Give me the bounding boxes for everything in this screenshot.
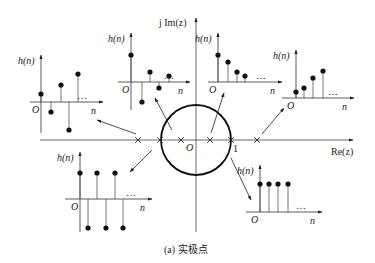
ellipsis: … — [256, 70, 266, 81]
diagram-canvas: j Im(z) Re(z) O 1 h(n)On…h(n)On…h(n)On…h… — [0, 0, 375, 263]
n-label: n — [310, 215, 315, 226]
arrow-icon — [97, 120, 136, 134]
stem-dot — [285, 181, 290, 186]
real-axis-label: Re(z) — [331, 146, 353, 158]
origin-label: O — [287, 100, 294, 111]
arrow-icon — [130, 150, 152, 172]
figure-caption: (a) 实极点 — [164, 243, 208, 256]
stem-dot — [85, 225, 90, 230]
z-origin-label: O — [186, 142, 193, 153]
ellipsis: … — [296, 200, 306, 211]
impulse-response-plots: h(n)On…h(n)On…h(n)On…h(n)On…h(n)On…h(n)O… — [18, 33, 354, 232]
stem-dot — [215, 52, 220, 57]
stem-dot — [257, 181, 262, 186]
n-label: n — [91, 105, 96, 116]
imag-axis-label: j Im(z) — [158, 17, 187, 29]
n-label: n — [178, 85, 183, 96]
origin-label: O — [71, 201, 78, 212]
pole-zero-diagram: j Im(z) Re(z) O 1 h(n)On…h(n)On…h(n)On…h… — [0, 0, 375, 263]
stem-plot-constant: h(n)On… — [237, 165, 322, 226]
stem-plot-growing: h(n)On… — [273, 50, 354, 112]
origin-label: O — [209, 84, 216, 95]
stem-dot — [242, 73, 247, 78]
stem-dot — [66, 127, 71, 132]
hn-label: h(n) — [18, 55, 35, 67]
ellipsis: … — [126, 187, 136, 198]
stem-dot — [234, 69, 239, 74]
stem-dot — [94, 170, 99, 175]
arrow-icon — [211, 93, 224, 133]
stem-dot — [156, 85, 161, 90]
stem-dot — [320, 68, 325, 73]
n-label: n — [140, 202, 145, 213]
stem-dot — [77, 170, 82, 175]
stem-dot — [58, 82, 63, 87]
n-label: n — [342, 101, 347, 112]
stem-dot — [112, 170, 117, 175]
ellipsis: … — [77, 90, 87, 101]
arrow-icon — [262, 108, 284, 134]
stem-dot — [120, 225, 125, 230]
stem-plot-alternating-growing: h(n)On… — [18, 55, 103, 133]
origin-label: O — [122, 84, 129, 95]
stem-dot — [38, 91, 43, 96]
ellipsis: … — [328, 86, 338, 97]
stem-dot — [310, 75, 315, 80]
stem-dot — [293, 89, 298, 94]
stem-dot — [103, 225, 108, 230]
unit-tick-label: 1 — [233, 143, 238, 154]
stem-dot — [139, 99, 144, 104]
stem-plot-decaying: h(n)On… — [195, 33, 282, 96]
hn-label: h(n) — [237, 165, 254, 177]
hn-label: h(n) — [57, 152, 74, 164]
stem-dot — [147, 69, 152, 74]
hn-label: h(n) — [273, 50, 290, 62]
stem-dot — [128, 52, 133, 57]
stem-dot — [48, 109, 53, 114]
stem-dot — [301, 85, 306, 90]
stem-plot-alternating-decaying: h(n)On… — [108, 33, 190, 110]
z-plane: j Im(z) Re(z) O 1 — [40, 17, 353, 232]
stem-dot — [266, 181, 271, 186]
hn-label: h(n) — [195, 33, 212, 45]
ellipsis: … — [164, 70, 174, 81]
origin-label: O — [32, 104, 39, 115]
origin-label: O — [251, 214, 258, 225]
stem-dot — [75, 71, 80, 76]
stem-dot — [225, 59, 230, 64]
stem-dot — [275, 181, 280, 186]
hn-label: h(n) — [108, 33, 125, 45]
n-label: n — [270, 85, 275, 96]
